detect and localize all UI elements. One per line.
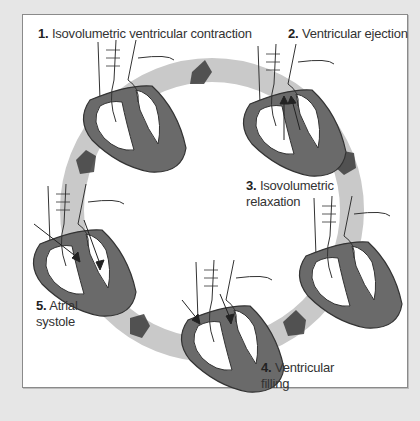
cardiac-cycle-diagram <box>0 0 420 421</box>
stage-5-name-line1: Atrial <box>49 298 77 313</box>
stage-1-label: 1. Isovolumetric ventricular contraction <box>38 26 252 42</box>
stage-4-name-line2: filling <box>261 376 289 391</box>
stage-5-label: 5. Atrial systole <box>36 298 78 330</box>
stage-5-number: 5. <box>36 298 46 313</box>
stage-3-number: 3. <box>246 178 256 193</box>
stage-4-label: 4. Ventricular filling <box>261 360 334 392</box>
heart-stage-1 <box>83 40 186 172</box>
stage-1-name: Isovolumetric ventricular contraction <box>52 26 252 41</box>
stage-4-number: 4. <box>261 360 271 375</box>
stage-5-name-line2: systole <box>36 314 75 329</box>
heart-stage-5 <box>33 184 136 316</box>
stage-2-label: 2. Ventricular ejection <box>288 26 408 42</box>
stage-2-name: Ventricular ejection <box>302 26 408 41</box>
stage-1-number: 1. <box>38 26 48 41</box>
stage-3-label: 3. Isovolumetric relaxation <box>246 178 334 210</box>
stage-2-number: 2. <box>288 26 298 41</box>
stage-3-name-line1: Isovolumetric <box>260 178 334 193</box>
stage-3-name-line2: relaxation <box>246 194 300 209</box>
stage-4-name-line1: Ventricular <box>275 360 334 375</box>
